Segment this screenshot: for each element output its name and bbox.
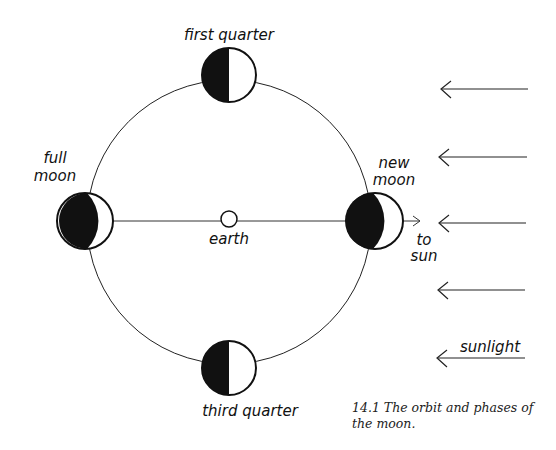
label-earth: earth [209,230,249,248]
label-full-line2: moon [34,167,76,185]
label-full-line1: full [43,149,67,167]
caption-line2: the moon. [352,416,415,431]
label-sunlight: sunlight [460,338,521,356]
sunlight-arrow [441,81,528,98]
moon-new [345,193,403,249]
sunlight-arrow [439,149,527,166]
moon-third-quarter [202,341,256,395]
label-new-line1: new [378,154,410,172]
label-new-line2: moon [373,171,415,189]
moon-phases-diagram: first quarter full moon new moon earth t… [0,0,556,450]
moon-full [57,193,113,249]
sunlight-arrow [439,215,526,232]
sunlight-arrow [438,282,525,299]
label-third-quarter: third quarter [202,402,299,420]
earth-circle [221,211,237,227]
caption-line1: 14.1 The orbit and phases of [352,400,536,415]
label-first-quarter: first quarter [184,26,275,44]
moon-first-quarter [202,48,256,102]
label-sun: sun [411,247,438,265]
